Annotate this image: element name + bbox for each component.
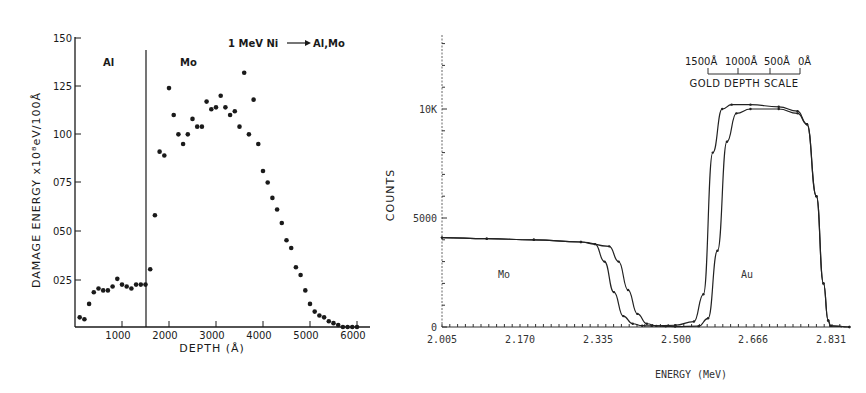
data-point bbox=[636, 313, 638, 315]
data-point bbox=[284, 238, 289, 243]
data-point bbox=[294, 265, 299, 270]
data-point bbox=[341, 325, 346, 330]
data-point bbox=[115, 277, 120, 282]
y-tick-125: 125 bbox=[53, 81, 72, 92]
region-label-al: Al bbox=[103, 57, 114, 68]
depth-scale-bracket bbox=[708, 68, 800, 74]
y-tick-150: 150 bbox=[53, 33, 72, 44]
x-tick-2500: 2.500 bbox=[661, 334, 691, 345]
data-point bbox=[204, 99, 209, 104]
data-point bbox=[129, 286, 134, 291]
data-point bbox=[312, 309, 317, 314]
data-point bbox=[336, 323, 341, 328]
y-ticks bbox=[75, 38, 81, 280]
data-point bbox=[209, 107, 214, 112]
rbs-spectrum-chart: COUNTS 0 5000 10K 2.005 2.170 2.335 2.50… bbox=[380, 0, 866, 393]
data-point bbox=[77, 315, 82, 320]
data-point bbox=[82, 317, 87, 322]
data-point bbox=[148, 267, 153, 272]
data-point bbox=[261, 169, 266, 174]
data-point bbox=[242, 70, 247, 75]
data-point bbox=[730, 103, 732, 105]
data-points bbox=[77, 70, 359, 329]
x-tick-4000: 4000 bbox=[246, 330, 271, 341]
data-point bbox=[827, 319, 829, 321]
data-point bbox=[200, 124, 205, 129]
data-point bbox=[195, 124, 200, 129]
data-point bbox=[96, 286, 101, 291]
x-tick-3000: 3000 bbox=[199, 330, 224, 341]
data-point bbox=[303, 288, 308, 293]
data-point bbox=[796, 112, 798, 114]
y-axis-label: DAMAGE ENERGY x10⁸eV/100Å bbox=[30, 92, 43, 288]
data-point bbox=[176, 132, 181, 137]
data-point bbox=[603, 260, 605, 262]
spectrum-curve bbox=[442, 105, 849, 327]
data-point bbox=[157, 149, 162, 154]
data-point bbox=[721, 108, 723, 110]
data-point bbox=[486, 238, 488, 240]
data-point bbox=[749, 108, 751, 110]
y-axis-label: COUNTS bbox=[384, 169, 397, 221]
data-point bbox=[331, 321, 336, 326]
x-axis-label: ENERGY (MeV) bbox=[655, 369, 727, 380]
gold-depth-scale: 1500Å 1000Å 500Å 0Å GOLD DEPTH SCALE bbox=[685, 55, 811, 89]
x-tick-labels: 1000 2000 3000 4000 5000 6000 bbox=[105, 330, 365, 341]
arrow-head-icon bbox=[305, 40, 311, 46]
data-point bbox=[237, 124, 242, 129]
data-point bbox=[167, 86, 172, 91]
data-point bbox=[134, 282, 139, 287]
data-point bbox=[218, 94, 223, 99]
data-point bbox=[350, 325, 355, 330]
data-point bbox=[110, 284, 115, 289]
data-point bbox=[92, 290, 97, 295]
spectrum-curves bbox=[442, 105, 849, 327]
data-point bbox=[171, 113, 176, 118]
y-tick-050: 050 bbox=[53, 226, 72, 237]
data-point bbox=[345, 325, 350, 330]
y-tick-10k: 10K bbox=[419, 104, 437, 115]
rbs-spectrum-plot: COUNTS 0 5000 10K 2.005 2.170 2.335 2.50… bbox=[380, 0, 866, 393]
data-point bbox=[124, 284, 129, 289]
data-point bbox=[533, 239, 535, 241]
data-point bbox=[627, 289, 629, 291]
region-label-au: Au bbox=[741, 269, 753, 280]
data-point bbox=[674, 325, 676, 327]
x-tick-labels: 2.005 2.170 2.335 2.500 2.666 2.831 bbox=[427, 334, 846, 345]
data-point bbox=[613, 291, 615, 293]
data-point bbox=[655, 325, 657, 327]
x-tick-1000: 1000 bbox=[105, 330, 130, 341]
data-point bbox=[726, 141, 728, 143]
region-label-mo: Mo bbox=[180, 57, 197, 68]
data-point bbox=[716, 250, 718, 252]
data-point bbox=[829, 325, 831, 327]
data-point bbox=[693, 320, 695, 322]
data-point bbox=[646, 323, 648, 325]
data-point bbox=[120, 282, 125, 287]
x-tick-2170: 2.170 bbox=[505, 334, 535, 345]
chart-title: 1 MeV Ni bbox=[228, 38, 278, 49]
damage-energy-chart: DAMAGE ENERGY x10⁸eV/100Å 150 125 100 07… bbox=[0, 0, 390, 393]
data-point bbox=[822, 282, 824, 284]
data-point bbox=[697, 325, 699, 327]
x-ticks bbox=[122, 321, 357, 327]
data-point bbox=[749, 103, 751, 105]
data-point bbox=[580, 241, 582, 243]
y-tick-0: 0 bbox=[431, 322, 437, 333]
data-point bbox=[186, 132, 191, 137]
data-point bbox=[712, 151, 714, 153]
data-point bbox=[280, 221, 285, 226]
data-point bbox=[251, 97, 256, 102]
y-tick-labels: 0 5000 10K bbox=[413, 104, 437, 333]
spectrum-data-points bbox=[441, 103, 851, 328]
data-point bbox=[778, 108, 780, 110]
data-point bbox=[441, 236, 443, 238]
data-point bbox=[322, 315, 327, 320]
spectrum-curve bbox=[442, 109, 849, 327]
region-label-mo: Mo bbox=[498, 269, 510, 280]
data-point bbox=[815, 195, 817, 197]
data-point bbox=[265, 180, 270, 185]
data-point bbox=[162, 153, 167, 158]
data-point bbox=[707, 317, 709, 319]
data-point bbox=[617, 260, 619, 262]
